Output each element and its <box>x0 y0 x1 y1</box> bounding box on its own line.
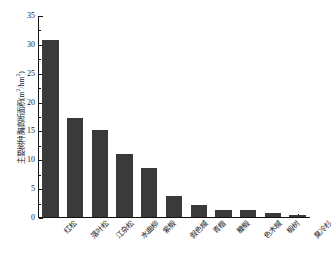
y-tick-minor-mark <box>39 59 41 60</box>
y-axis-title-sup-2: 2 <box>15 74 21 77</box>
y-tick-minor-mark <box>39 30 41 31</box>
y-tick-label: 0 <box>31 214 35 222</box>
bar <box>166 196 182 217</box>
x-tick-label: 青楷 <box>212 220 227 235</box>
x-tick-label: 紫椴 <box>162 220 177 235</box>
y-axis-title-sup-1: 2 <box>15 89 21 92</box>
x-tick-label: 糠椴 <box>237 220 252 235</box>
y-axis-title: 主要树种胸高断面积(m2/hm2) <box>15 23 26 213</box>
x-tick-label: 臭冷杉 <box>313 220 333 240</box>
x-tick-label: 红松 <box>63 220 78 235</box>
bar <box>265 213 281 217</box>
x-tick-label: 椴树 <box>286 220 301 235</box>
x-tick-label: 假色槭 <box>189 220 209 240</box>
y-tick-minor-mark <box>39 175 41 176</box>
bar <box>67 118 83 217</box>
x-tick-label: 落叶松 <box>90 220 110 240</box>
y-tick-minor-mark <box>39 204 41 205</box>
y-tick-label: 15 <box>27 127 35 135</box>
bar <box>141 168 157 217</box>
x-axis-labels: 红松落叶松江杂松水曲柳紫椴假色槭青楷糠椴色木槭椴树臭冷杉 <box>38 220 328 272</box>
x-tick-label: 江杂松 <box>115 220 135 240</box>
y-tick-label: 25 <box>27 70 35 78</box>
y-tick-label: 30 <box>27 41 35 49</box>
plot-area: 05101520253035 <box>38 16 310 218</box>
bar <box>215 210 231 218</box>
bar <box>289 215 305 217</box>
y-tick-label: 5 <box>31 185 35 193</box>
x-tick-label: 水曲柳 <box>140 220 160 240</box>
bar <box>240 210 256 217</box>
y-tick-minor-mark <box>39 146 41 147</box>
y-axis-title-prefix: 主要树种胸高断面积(m <box>17 91 26 163</box>
x-axis-line <box>38 217 310 218</box>
y-tick-minor-mark <box>39 117 41 118</box>
bar <box>191 205 207 217</box>
y-tick-mark <box>39 16 43 17</box>
bar <box>42 40 58 217</box>
y-axis-title-suffix: ) <box>17 71 26 74</box>
bar <box>116 154 132 217</box>
y-tick-mark <box>39 218 43 219</box>
y-tick-label: 10 <box>27 156 35 164</box>
y-tick-label: 20 <box>27 99 35 107</box>
y-axis-title-middle: /hm <box>17 77 26 89</box>
x-tick-label: 色木槭 <box>263 220 283 240</box>
bar <box>92 130 108 217</box>
y-tick-minor-mark <box>39 88 41 89</box>
y-tick-label: 35 <box>27 12 35 20</box>
